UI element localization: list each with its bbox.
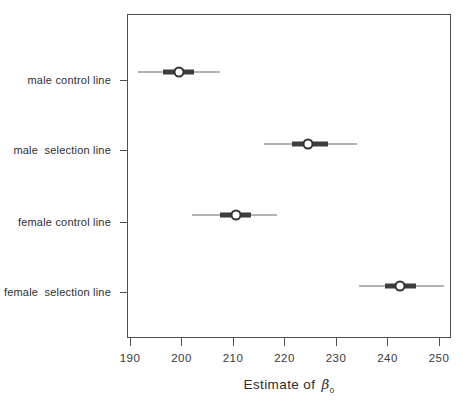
y-axis-tick xyxy=(120,80,127,81)
x-axis-tick xyxy=(284,338,285,346)
y-axis-tick xyxy=(120,292,127,293)
estimate-point xyxy=(395,281,406,292)
estimate-point xyxy=(230,210,241,221)
category-label: female selection line xyxy=(4,286,111,298)
y-axis-tick xyxy=(120,150,127,151)
x-axis-tick-label: 250 xyxy=(429,352,450,364)
x-axis-tick-label: 210 xyxy=(223,352,244,364)
x-axis-tick xyxy=(181,338,182,346)
category-label: male selection line xyxy=(13,144,111,156)
x-axis-tick xyxy=(439,338,440,346)
y-axis-tick xyxy=(120,222,127,223)
beta-symbol: β xyxy=(321,376,329,392)
estimate-point xyxy=(173,67,184,78)
estimate-point xyxy=(302,139,313,150)
beta-subscript: 0 xyxy=(330,386,335,395)
x-axis-title-text: Estimate of xyxy=(243,377,315,392)
x-axis-tick-label: 230 xyxy=(326,352,347,364)
x-axis-tick-label: 240 xyxy=(377,352,398,364)
x-axis-tick xyxy=(387,338,388,346)
category-label: male control line xyxy=(28,74,112,86)
x-axis-tick-label: 190 xyxy=(120,352,141,364)
coefficient-interval-plot: 190200210220230240250male control linema… xyxy=(0,0,463,415)
x-axis-tick-label: 220 xyxy=(274,352,295,364)
x-axis-title: Estimate ofβ0 xyxy=(127,376,451,395)
x-axis-tick xyxy=(336,338,337,346)
x-axis-tick xyxy=(233,338,234,346)
category-label: female control line xyxy=(18,216,111,228)
x-axis-tick xyxy=(130,338,131,346)
x-axis-tick-label: 200 xyxy=(171,352,192,364)
